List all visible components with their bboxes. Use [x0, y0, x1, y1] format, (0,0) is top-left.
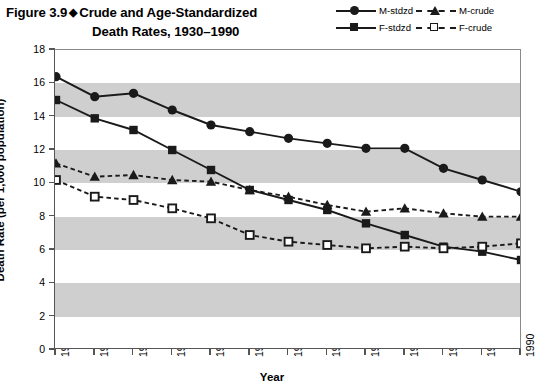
filled-circle-marker: [206, 120, 215, 129]
filled-circle-marker: [478, 175, 487, 184]
legend-label-f-stdzd: F-stdzd: [379, 22, 411, 33]
y-tick-label: 4: [21, 276, 45, 288]
x-tick-mark: [171, 349, 173, 355]
legend-label-m-stdzd: M-stdzd: [379, 5, 413, 16]
open-square-marker: [517, 239, 521, 247]
series-layer: [55, 50, 521, 349]
x-axis-label: Year: [0, 371, 544, 383]
filled-circle-marker: [90, 92, 99, 101]
filled-circle-marker: [323, 139, 332, 148]
filled-square-icon: [350, 23, 358, 31]
open-square-marker: [362, 244, 370, 252]
filled-circle-marker: [245, 127, 254, 136]
y-tick-label: 6: [21, 243, 45, 255]
filled-square-marker: [517, 256, 521, 264]
open-square-marker: [207, 214, 215, 222]
filled-triangle-marker: [54, 158, 61, 167]
filled-circle-marker: [400, 144, 409, 153]
filled-square-marker: [207, 166, 215, 174]
x-tick-mark: [364, 349, 366, 355]
open-square-marker: [130, 196, 138, 204]
x-tick-label: 1990: [524, 334, 536, 357]
x-tick-mark: [93, 349, 95, 355]
open-square-marker: [478, 243, 486, 251]
legend-swatch-f-crude: [416, 22, 456, 34]
filled-triangle-marker: [516, 211, 521, 220]
y-tick-label: 2: [21, 310, 45, 322]
open-square-marker: [54, 176, 60, 184]
series-m-stdzd: [54, 72, 521, 196]
legend-label-m-crude: M-crude: [459, 5, 494, 16]
y-tick-label: 14: [21, 110, 45, 122]
open-square-marker: [285, 238, 293, 246]
filled-triangle-marker: [206, 176, 216, 185]
filled-circle-icon: [350, 6, 359, 15]
y-tick-label: 12: [21, 143, 45, 155]
filled-circle-marker: [54, 72, 61, 81]
filled-square-marker: [91, 114, 99, 122]
filled-triangle-marker: [128, 170, 138, 179]
x-tick-mark: [519, 349, 521, 355]
filled-triangle-icon: [430, 6, 440, 15]
series-line: [56, 100, 521, 260]
x-tick-mark: [248, 349, 250, 355]
legend-item-m-crude[interactable]: M-crude: [416, 2, 542, 19]
y-axis-label: Death Rate (per 1,000 population): [0, 99, 6, 282]
filled-circle-marker: [129, 89, 138, 98]
figure-title: Figure 3.9◆Crude and Age-Standardized De…: [6, 3, 336, 41]
figure-header: Figure 3.9◆Crude and Age-Standardized De…: [0, 0, 544, 44]
plot-frame: [54, 49, 521, 349]
y-tick-label: 18: [21, 43, 45, 55]
filled-circle-marker: [516, 187, 521, 196]
legend-item-f-crude[interactable]: F-crude: [416, 19, 542, 36]
figure-title-line2: Death Rates, 1930–1990: [6, 22, 336, 41]
open-square-marker: [323, 241, 331, 249]
filled-triangle-marker: [90, 171, 100, 180]
x-tick-mark: [481, 349, 483, 355]
y-tick-label: 8: [21, 210, 45, 222]
legend-swatch-f-stdzd: [336, 22, 376, 34]
x-tick-mark: [54, 349, 56, 355]
open-square-marker: [246, 231, 254, 239]
filled-triangle-marker: [477, 211, 487, 220]
x-tick-mark: [326, 349, 328, 355]
filled-circle-marker: [361, 144, 370, 153]
filled-circle-marker: [439, 164, 448, 173]
x-tick-mark: [132, 349, 134, 355]
legend-item-m-stdzd[interactable]: M-stdzd: [336, 2, 412, 19]
open-square-marker: [440, 244, 448, 252]
filled-circle-marker: [284, 134, 293, 143]
legend-item-f-stdzd[interactable]: F-stdzd: [336, 19, 412, 36]
chart-area: Death Rate (per 1,000 population) 024681…: [0, 40, 544, 391]
figure-title-line1: Crude and Age-Standardized: [79, 5, 257, 20]
figure-number: Figure 3.9: [6, 5, 67, 20]
filled-square-marker: [168, 146, 176, 154]
filled-square-marker: [129, 126, 137, 134]
y-tick-label: 0: [21, 343, 45, 355]
open-square-marker: [91, 193, 99, 201]
series-m-crude: [54, 158, 521, 221]
open-square-marker: [168, 204, 176, 212]
x-tick-mark: [287, 349, 289, 355]
chart-legend: M-stdzd M-crude F-stdzd F-crude: [336, 2, 542, 36]
filled-triangle-marker: [167, 175, 177, 184]
filled-square-marker: [54, 96, 60, 104]
filled-square-marker: [362, 219, 370, 227]
open-square-icon: [430, 23, 438, 31]
x-tick-mark: [403, 349, 405, 355]
x-tick-mark: [209, 349, 211, 355]
open-square-marker: [401, 243, 409, 251]
diamond-icon: ◆: [67, 6, 79, 18]
filled-circle-marker: [168, 105, 177, 114]
y-tick-label: 10: [21, 176, 45, 188]
legend-label-f-crude: F-crude: [459, 22, 492, 33]
legend-swatch-m-stdzd: [336, 5, 376, 17]
filled-square-marker: [401, 231, 409, 239]
legend-swatch-m-crude: [416, 5, 456, 17]
y-tick-label: 16: [21, 76, 45, 88]
x-tick-mark: [442, 349, 444, 355]
